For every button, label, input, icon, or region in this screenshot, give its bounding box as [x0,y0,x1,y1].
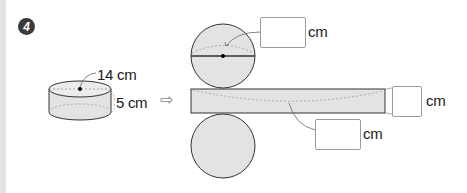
unit-label-rect-height: cm [426,92,445,109]
cylinder-diameter-label: 14 cm [97,66,136,83]
unit-label-circle: cm [308,23,327,40]
answer-box-circle-circumference[interactable] [260,17,306,48]
unit-label-rect-length: cm [363,125,382,142]
net-bottom-circle [191,114,255,178]
cylinder-height-label: 5 cm [116,94,147,111]
answer-box-rect-height[interactable] [392,86,422,117]
answer-box-rect-length[interactable] [315,119,361,150]
transform-arrow-icon: ⇨ [160,90,173,109]
net-top-circle [191,24,260,88]
